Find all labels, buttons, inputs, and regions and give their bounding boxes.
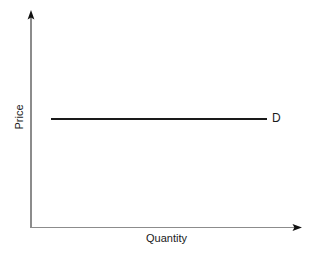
quantity-axis-title: Quantity [146,233,187,244]
chart-canvas: Price Quantity D [0,0,313,260]
demand-curve-label: D [272,112,281,124]
price-axis-title: Price [14,104,25,129]
chart-plot-area [0,0,313,260]
